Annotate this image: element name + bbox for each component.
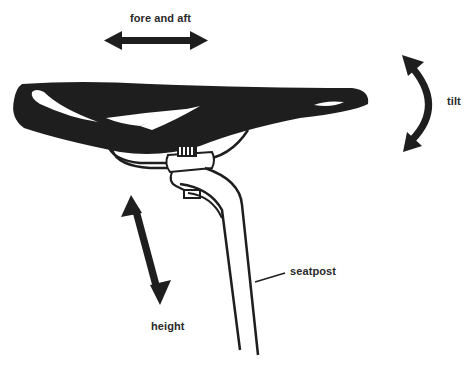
tilt-label: tilt xyxy=(447,95,461,107)
height-arrow-icon xyxy=(121,195,171,305)
saddle-adjustment-diagram: fore and aft tilt height seatpost xyxy=(0,0,476,371)
fore-aft-arrow-icon xyxy=(104,31,208,50)
saddle xyxy=(13,82,368,154)
tilt-arrow-icon xyxy=(402,55,429,152)
seatpost-clamp xyxy=(166,146,214,198)
height-label: height xyxy=(151,320,185,332)
seatpost-label: seatpost xyxy=(290,265,336,277)
fore-and-aft-label: fore and aft xyxy=(130,12,191,24)
diagram-drawing xyxy=(0,0,476,371)
